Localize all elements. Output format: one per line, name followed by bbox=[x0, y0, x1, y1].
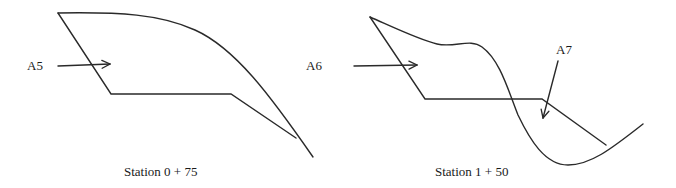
area-a6-arrow bbox=[354, 65, 417, 66]
caption-station-0-75: Station 0 + 75 bbox=[124, 165, 197, 178]
caption-station-1-50: Station 1 + 50 bbox=[435, 165, 508, 178]
figure-station-0-75 bbox=[58, 13, 313, 157]
roadway-template-line bbox=[370, 17, 606, 145]
area-a5-arrow bbox=[58, 64, 110, 66]
diagram-canvas bbox=[0, 0, 676, 188]
ground-profile-line bbox=[58, 13, 313, 157]
figure-station-1-50 bbox=[354, 17, 643, 165]
cross-section-diagram: A5 A6 A7 Station 0 + 75 Station 1 + 50 bbox=[0, 0, 676, 188]
area-label-a5: A5 bbox=[27, 59, 43, 72]
area-label-a6: A6 bbox=[306, 59, 322, 72]
roadway-template-line bbox=[58, 13, 296, 138]
area-label-a7: A7 bbox=[556, 43, 572, 56]
